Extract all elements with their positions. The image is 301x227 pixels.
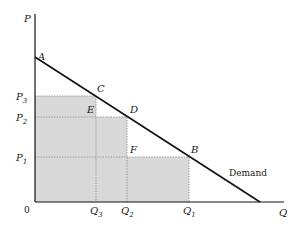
- shaded-rect-p1q1: [35, 157, 189, 202]
- quantity-label-q2: Q2: [121, 205, 134, 219]
- origin-label: 0: [24, 205, 30, 215]
- point-a-label: A: [37, 51, 45, 62]
- demand-label: Demand: [229, 168, 267, 178]
- quantity-label-q3: Q3: [90, 205, 103, 219]
- point-c-label: C: [97, 83, 105, 94]
- quantity-label-q1: Q1: [183, 205, 196, 219]
- point-f-label: F: [129, 144, 138, 155]
- price-label-p1: P1: [15, 152, 27, 166]
- point-e-label: E: [86, 104, 95, 115]
- demand-diagram: P Q 0 P3 P2 P1 Q3 Q2 Q1 A C E D F B Dema…: [0, 0, 301, 227]
- y-axis-label: P: [23, 13, 31, 24]
- point-d-label: D: [129, 104, 138, 115]
- x-axis-label: Q: [279, 207, 287, 218]
- price-label-p2: P2: [15, 112, 28, 126]
- point-b-label: B: [190, 144, 198, 155]
- price-label-p3: P3: [15, 91, 28, 105]
